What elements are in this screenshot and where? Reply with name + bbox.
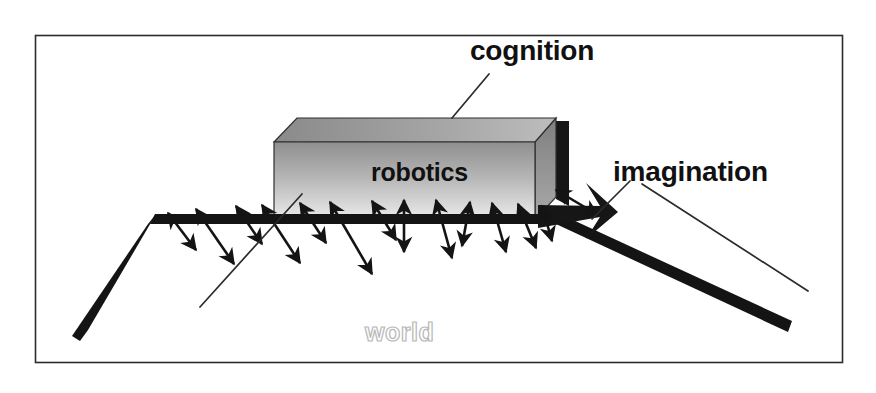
label-imagination: imagination <box>613 156 768 188</box>
label-robotics: robotics <box>371 158 468 187</box>
label-world: world <box>365 318 434 347</box>
diagram-svg <box>0 0 876 393</box>
box-top-face <box>274 118 556 142</box>
diagram-canvas: cognition imagination robotics world <box>0 0 876 393</box>
label-cognition: cognition <box>470 35 594 67</box>
